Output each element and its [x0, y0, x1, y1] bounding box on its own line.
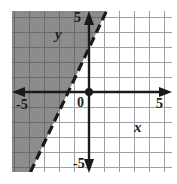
origin-label: 0	[77, 96, 84, 110]
y-axis-max-tick-label: 5	[74, 11, 81, 25]
coordinate-plane-svg	[0, 0, 177, 184]
origin-dot	[85, 88, 93, 96]
x-axis-min-tick-label: -5	[16, 98, 28, 112]
y-axis-name-label: y	[55, 27, 62, 42]
plot-area: 5 -5 -5 5 0 y x	[0, 0, 177, 184]
y-axis-min-tick-label: -5	[73, 157, 85, 171]
inequality-graph-figure: 5 -5 -5 5 0 y x	[0, 0, 177, 184]
x-axis-max-tick-label: 5	[156, 97, 163, 111]
x-axis-name-label: x	[134, 120, 142, 135]
